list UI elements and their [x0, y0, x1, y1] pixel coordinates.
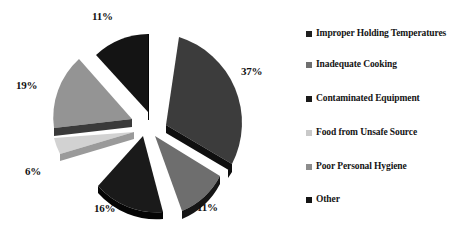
legend-item-other[interactable]: Other: [306, 194, 340, 206]
pie-slice-other-edge: [148, 34, 149, 120]
pie-label-other: 11%: [92, 11, 113, 22]
legend-swatch-icon: [306, 164, 312, 170]
pie-svg: [0, 0, 300, 232]
pie-chart-figure: 37% 11% 16% 6% 19% 11% Improper Holding …: [0, 0, 464, 232]
legend-item-contaminated-equipment[interactable]: Contaminated Equipment: [306, 93, 420, 105]
legend-label: Improper Holding Temperatures: [316, 29, 446, 39]
legend-item-inadequate-cooking[interactable]: Inadequate Cooking: [306, 59, 397, 71]
legend-swatch-icon: [306, 31, 312, 37]
pie-label-improper-holding-temperatures: 37%: [241, 66, 262, 77]
pie-label-inadequate-cooking: 11%: [197, 202, 218, 213]
legend-swatch-icon: [306, 197, 312, 203]
legend-label: Poor Personal Hygiene: [316, 162, 407, 172]
legend-item-poor-personal-hygiene[interactable]: Poor Personal Hygiene: [306, 161, 407, 173]
chart-legend: Improper Holding Temperatures Inadequate…: [306, 24, 464, 208]
legend-swatch-icon: [306, 130, 312, 136]
pie-label-food-from-unsafe-source: 6%: [25, 166, 41, 177]
legend-swatch-icon: [306, 96, 312, 102]
legend-swatch-icon: [306, 62, 312, 68]
legend-label: Other: [316, 195, 340, 205]
legend-label: Inadequate Cooking: [316, 60, 397, 70]
legend-label: Contaminated Equipment: [316, 94, 420, 104]
legend-label: Food from Unsafe Source: [316, 128, 417, 138]
pie-slice-improper-holding-temperatures-top: [166, 37, 242, 164]
legend-item-food-from-unsafe-source[interactable]: Food from Unsafe Source: [306, 127, 417, 139]
pie-plot-area: 37% 11% 16% 6% 19% 11%: [0, 0, 300, 232]
pie-slice-food-from-unsafe-source[interactable]: [54, 132, 134, 161]
legend-item-improper-holding-temperatures[interactable]: Improper Holding Temperatures: [306, 28, 446, 40]
pie-label-poor-personal-hygiene: 19%: [16, 80, 37, 91]
pie-label-contaminated-equipment: 16%: [94, 203, 115, 214]
